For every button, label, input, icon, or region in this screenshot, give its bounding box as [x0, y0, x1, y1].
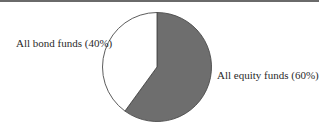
- label-equity-funds: All equity funds (60%): [217, 69, 319, 81]
- pie-chart: [0, 0, 319, 135]
- pie-slices: [103, 13, 212, 122]
- label-bond-funds: All bond funds (40%): [16, 37, 112, 49]
